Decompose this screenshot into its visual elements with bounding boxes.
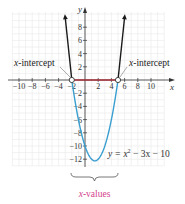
y-axis-label: y <box>77 4 82 14</box>
x-axis-label: x <box>169 82 174 92</box>
parabola-right-branch <box>118 17 125 80</box>
y-tick-label: 8 <box>78 23 82 32</box>
y-tick-label: 2 <box>78 63 82 72</box>
brace-icon <box>71 173 118 181</box>
x-values-label: x-values <box>78 189 111 199</box>
left-intercept-label: x-intercept <box>13 58 55 68</box>
x-tick-label: −10 <box>13 82 26 91</box>
parabola-left-branch <box>65 17 72 80</box>
y-tick-label: −12 <box>69 155 82 164</box>
x-tick-label: 6 <box>123 82 127 91</box>
y-tick-label: 4 <box>78 50 82 59</box>
x-tick-label: 2 <box>96 82 100 91</box>
y-axis-arrow-icon <box>83 7 87 13</box>
x-tick-label: 4 <box>109 82 113 91</box>
x-tick-label: −4 <box>54 82 63 91</box>
left-intercept-point <box>69 77 74 82</box>
x-tick-label: 8 <box>136 82 140 91</box>
graph: x y −10−8−6−4−22468108642−2−4−6−8−10−12 … <box>0 0 185 204</box>
x-tick-label: −8 <box>28 82 37 91</box>
y-tick-label: 6 <box>78 36 82 45</box>
right-callout-leader <box>120 67 127 77</box>
x-tick-label: 10 <box>147 82 155 91</box>
x-tick-label: −6 <box>41 82 50 91</box>
right-intercept-point <box>115 77 120 82</box>
y-tick-label: −10 <box>69 142 82 151</box>
y-tick-label: −4 <box>73 102 82 111</box>
right-intercept-label: x-intercept <box>128 58 170 68</box>
equation-label: y = x2 − 3x − 10 <box>107 148 170 159</box>
